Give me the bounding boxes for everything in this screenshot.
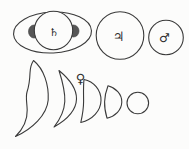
saturn-symbol-icon: ♄ — [49, 26, 59, 39]
jupiter-symbol-icon: ♃ — [113, 29, 125, 44]
venus-phase-crescent — [54, 71, 77, 128]
mars-symbol-icon: ♂ — [159, 31, 170, 45]
engraving-plate: ♄ ♃ ♂ ♀ — [0, 0, 189, 149]
planet-views-canvas: ♄ ♃ ♂ ♀ — [0, 0, 189, 149]
venus-phase-large-crescent — [16, 61, 49, 137]
venus-phase-half — [81, 80, 101, 123]
jupiter-figure: ♃ — [96, 12, 144, 60]
venus-phases-figure: ♀ — [16, 61, 149, 137]
venus-phase-full-disc — [127, 92, 149, 114]
mars-figure: ♂ — [149, 20, 184, 55]
venus-phase-small-gibbous — [105, 86, 122, 118]
saturn-figure: ♄ — [13, 10, 93, 54]
